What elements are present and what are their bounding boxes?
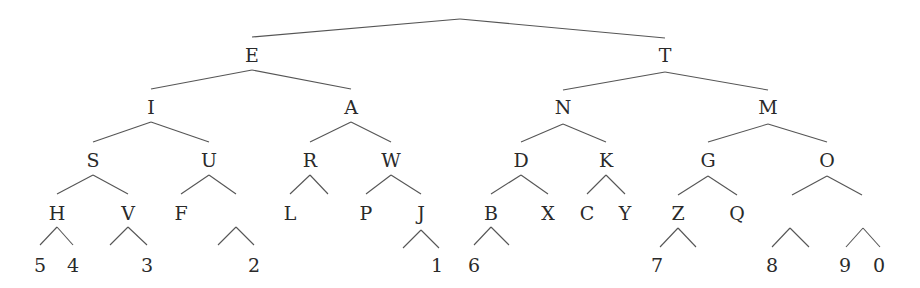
- tree-edges: [0, 0, 920, 288]
- tree-node-d7: 7: [651, 256, 663, 275]
- tree-node-M: M: [758, 98, 777, 117]
- tree-node-d9: 9: [839, 256, 851, 275]
- tree-node-X: X: [541, 204, 555, 223]
- tree-edge: [863, 228, 880, 247]
- tree-edge: [665, 72, 768, 90]
- tree-edge: [218, 227, 236, 245]
- tree-node-D: D: [513, 151, 528, 170]
- tree-edge: [563, 72, 665, 90]
- tree-node-L: L: [284, 204, 297, 223]
- tree-node-U: U: [201, 151, 217, 170]
- tree-edge: [252, 70, 351, 89]
- tree-node-O: O: [819, 151, 835, 170]
- tree-node-d0: 0: [873, 256, 885, 275]
- tree-node-d8: 8: [766, 256, 778, 275]
- tree-node-T: T: [659, 46, 672, 65]
- tree-node-R: R: [303, 151, 317, 170]
- tree-edge: [827, 176, 862, 195]
- tree-edge: [236, 227, 254, 245]
- tree-edge: [391, 175, 421, 194]
- tree-edge: [351, 122, 391, 142]
- tree-edge: [57, 227, 73, 245]
- tree-node-d4: 4: [67, 256, 79, 275]
- tree-edge: [790, 228, 809, 247]
- tree-edge: [290, 175, 310, 194]
- tree-node-C: C: [580, 204, 595, 223]
- tree-node-P: P: [360, 204, 373, 223]
- tree-edge: [151, 70, 252, 89]
- tree-node-K: K: [599, 151, 613, 170]
- tree-edge: [252, 19, 460, 37]
- tree-node-d5: 5: [34, 256, 46, 275]
- tree-edge: [93, 175, 128, 194]
- tree-edge: [678, 228, 696, 247]
- tree-node-S: S: [86, 151, 99, 170]
- tree-node-H: H: [49, 204, 66, 223]
- tree-node-E: E: [245, 46, 259, 65]
- morse-code-tree: ETIANMSURWDKGOHVFLPJBXCYZQ5432167890: [0, 0, 920, 288]
- tree-edge: [460, 19, 665, 38]
- tree-edge: [708, 176, 737, 195]
- tree-edge: [772, 228, 790, 247]
- tree-edge: [606, 175, 625, 194]
- tree-node-F: F: [174, 204, 187, 223]
- tree-edge: [521, 124, 563, 142]
- tree-edge: [678, 176, 708, 195]
- tree-node-G: G: [700, 151, 715, 170]
- tree-node-W: W: [381, 151, 401, 170]
- tree-edge: [660, 228, 678, 247]
- tree-edge: [474, 227, 491, 245]
- tree-edge: [587, 175, 606, 194]
- tree-edge: [403, 230, 421, 248]
- tree-edge: [151, 122, 209, 142]
- tree-edge: [128, 227, 147, 245]
- tree-edge: [563, 124, 606, 142]
- tree-edge: [708, 124, 768, 142]
- tree-edge: [491, 175, 521, 194]
- tree-node-d3: 3: [141, 256, 153, 275]
- tree-node-N: N: [555, 98, 572, 117]
- tree-edge: [366, 175, 391, 194]
- tree-node-I: I: [147, 98, 155, 117]
- tree-edge: [40, 227, 57, 245]
- tree-edge: [521, 175, 548, 194]
- tree-node-d6: 6: [468, 256, 480, 275]
- tree-edge: [792, 176, 827, 195]
- tree-node-A: A: [344, 98, 358, 117]
- tree-edge: [209, 175, 236, 194]
- tree-node-Z: Z: [671, 204, 684, 223]
- tree-edge: [846, 228, 863, 247]
- tree-edge: [768, 124, 827, 142]
- tree-edge: [181, 175, 209, 194]
- tree-node-V: V: [121, 204, 135, 223]
- tree-node-Y: Y: [619, 204, 632, 223]
- tree-node-Q: Q: [729, 204, 745, 223]
- tree-edge: [421, 230, 439, 248]
- tree-node-J: J: [417, 204, 425, 223]
- tree-edge: [491, 227, 509, 245]
- tree-edge: [57, 175, 93, 194]
- tree-node-d2: 2: [248, 256, 260, 275]
- tree-edge: [310, 175, 328, 194]
- tree-edge: [310, 122, 351, 142]
- tree-node-B: B: [484, 204, 498, 223]
- tree-node-d1: 1: [431, 256, 443, 275]
- tree-edge: [93, 122, 151, 142]
- tree-edge: [110, 227, 128, 245]
